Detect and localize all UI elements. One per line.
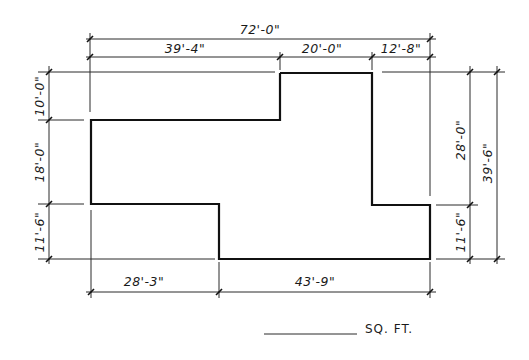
- area-unit-label: SQ. FT.: [365, 322, 413, 336]
- dim-right-overall: 39'-6": [480, 143, 495, 184]
- dim-top-segment-3: 12'-8": [381, 41, 422, 56]
- dim-top-overall: 72'-0": [240, 22, 281, 37]
- building-outline: [91, 73, 430, 259]
- floor-plan-diagram: 72'-0" 39'-4" 20'-0" 12'-8" 10'-0" 18'-0…: [0, 0, 529, 360]
- dimension-ticks: [46, 36, 500, 295]
- dim-top-segment-2: 20'-0": [302, 41, 343, 56]
- dim-bottom-segment-1: 28'-3": [124, 274, 165, 289]
- dim-right-segment-1: 28'-0": [453, 120, 468, 161]
- dim-left-segment-2: 18'-0": [32, 142, 47, 183]
- dim-right-segment-2: 11'-6": [453, 212, 468, 253]
- dim-left-segment-1: 10'-0": [32, 76, 47, 117]
- dim-bottom-segment-2: 43'-9": [295, 274, 336, 289]
- dim-top-segment-1: 39'-4": [165, 41, 206, 56]
- dim-left-segment-3: 11'-6": [32, 212, 47, 253]
